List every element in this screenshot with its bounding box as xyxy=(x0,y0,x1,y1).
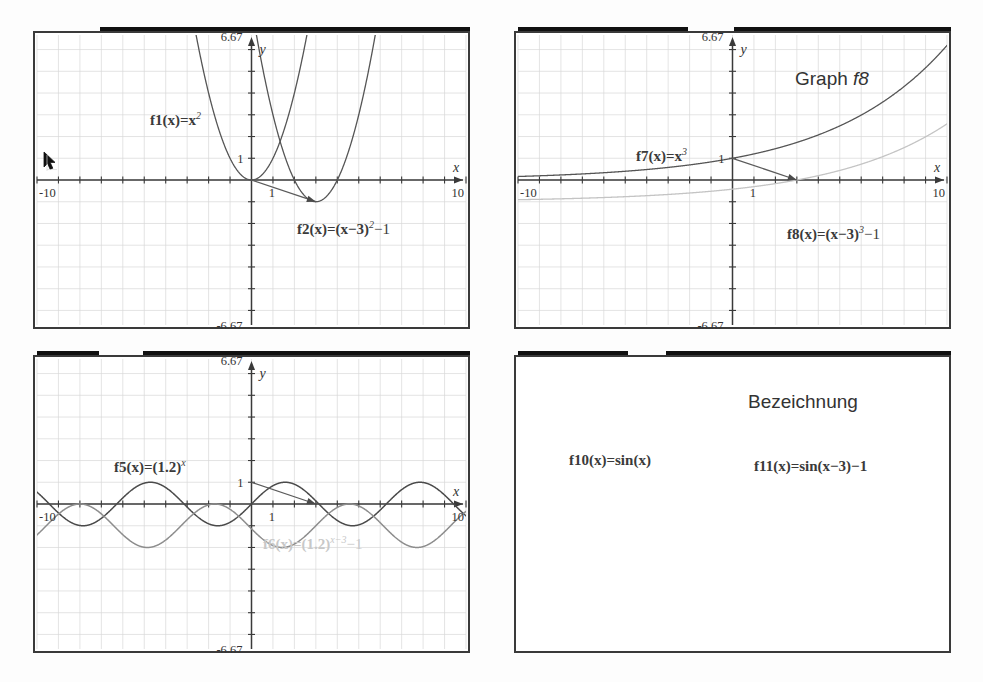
graph-panel-exponential[interactable]: -10106.67-6.6711xy f5(x)=(1.2)x f6(x)=(1… xyxy=(33,355,470,653)
svg-text:-6.67: -6.67 xyxy=(697,319,723,329)
svg-text:-6.67: -6.67 xyxy=(216,319,242,329)
svg-text:-10: -10 xyxy=(520,186,537,200)
plot-canvas-exponential: -10106.67-6.6711xy xyxy=(33,355,470,653)
svg-text:6.67: 6.67 xyxy=(702,31,724,44)
plot-canvas-cubic: -10106.67-6.6711xy xyxy=(514,31,951,329)
plot-canvas-quadratic: -10106.67-6.6711xy xyxy=(33,31,470,329)
svg-text:x: x xyxy=(452,484,460,499)
svg-text:6.67: 6.67 xyxy=(221,31,243,44)
svg-text:-10: -10 xyxy=(39,510,56,524)
svg-text:10: 10 xyxy=(933,186,946,200)
svg-text:6.67: 6.67 xyxy=(221,355,243,368)
graph-panel-cubic[interactable]: -10106.67-6.6711xy Graph f8 f7(x)=x3 f8(… xyxy=(514,31,951,329)
annotation-f11: f11(x)=sin(x−3)−1 xyxy=(754,459,867,474)
annotation-f7: f7(x)=x3 xyxy=(636,147,687,164)
annotation-f5: f5(x)=(1.2)x xyxy=(114,458,186,475)
worksheet-sheet: -10106.67-6.6711xy f1(x)=x2 f2(x)=(x−3)2… xyxy=(0,0,983,682)
annotation-f1: f1(x)=x2 xyxy=(150,111,201,128)
plot-canvas-sine xyxy=(514,355,951,653)
svg-text:1: 1 xyxy=(269,510,275,524)
annotation-f2: f2(x)=(x−3)2−1 xyxy=(297,220,390,237)
graph-panel-quadratic[interactable]: -10106.67-6.6711xy f1(x)=x2 f2(x)=(x−3)2… xyxy=(33,31,470,329)
svg-text:-10: -10 xyxy=(39,186,56,200)
svg-text:x: x xyxy=(933,160,941,175)
svg-text:10: 10 xyxy=(452,510,465,524)
svg-text:10: 10 xyxy=(452,186,465,200)
svg-text:1: 1 xyxy=(750,186,756,200)
annotation-f8: f8(x)=(x−3)3−1 xyxy=(787,225,880,242)
panel-title-cubic: Graph f8 xyxy=(795,69,869,88)
svg-text:y: y xyxy=(257,42,266,57)
svg-text:1: 1 xyxy=(237,152,243,166)
svg-text:y: y xyxy=(738,42,747,57)
svg-text:1: 1 xyxy=(237,476,243,490)
svg-text:1: 1 xyxy=(269,186,275,200)
mouse-pointer-icon: -10106.67-6.671xy xyxy=(43,151,57,171)
svg-text:y: y xyxy=(257,366,266,381)
annotation-f6: f6(x)=(1.2)x−3−1 xyxy=(263,535,362,552)
svg-text:-6.67: -6.67 xyxy=(216,643,242,653)
panel-title-sine: Bezeichnung xyxy=(748,392,858,411)
svg-text:1: 1 xyxy=(718,152,724,166)
annotation-f10: f10(x)=sin(x) xyxy=(569,453,651,468)
svg-text:x: x xyxy=(452,160,460,175)
graph-panel-sine[interactable]: Bezeichnung f10(x)=sin(x) f11(x)=sin(x−3… xyxy=(514,355,951,653)
